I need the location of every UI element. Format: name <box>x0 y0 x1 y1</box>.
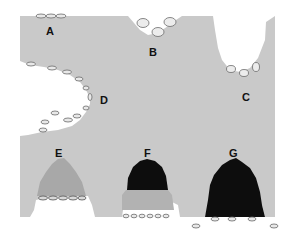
cells-e <box>39 196 87 200</box>
label-e: E <box>55 147 62 159</box>
cells-g <box>192 217 278 228</box>
label-f: F <box>144 147 151 159</box>
label-a: A <box>46 25 54 37</box>
cells-f <box>123 214 169 218</box>
tissue-diagram: A B C D E F G <box>0 0 307 237</box>
lesion-f-light-base <box>122 190 174 210</box>
cells-a <box>36 14 66 18</box>
label-b: B <box>149 46 157 58</box>
label-d: D <box>100 94 108 106</box>
label-g: G <box>229 147 238 159</box>
label-c: C <box>242 91 250 103</box>
